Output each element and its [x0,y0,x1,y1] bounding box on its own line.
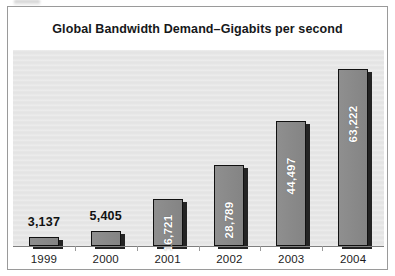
x-label-2000: 2000 [93,253,119,265]
bar-body-2004[interactable]: 63,222 [338,69,368,246]
bar-body-2003[interactable]: 44,497 [276,121,306,246]
bar-value-label-2004: 63,222 [347,105,359,142]
bar-body-2002[interactable]: 28,789 [214,165,244,246]
bar-2000[interactable]: 5,405 [91,50,121,246]
chart-title: Global Bandwidth Demand–Gigabits per sec… [52,22,342,36]
bar-body-2001[interactable]: 16,721 [153,199,183,246]
x-label-2001: 2001 [154,253,180,265]
bar-value-label-2002: 28,789 [223,202,235,239]
bar-body-1999[interactable] [29,237,59,246]
bar-2003[interactable]: 44,497 [276,50,306,246]
bar-2004[interactable]: 63,222 [338,50,368,246]
bar-1999[interactable]: 3,137 [29,50,59,246]
x-label-1999: 1999 [31,253,57,265]
x-label-2004: 2004 [340,253,366,265]
bar-2001[interactable]: 16,721 [153,50,183,246]
bar-series-layer: 3,1375,40516,72128,78944,49763,222 [13,50,384,246]
scan-top-white-margin [0,0,395,3]
chart-title-band: Global Bandwidth Demand–Gigabits per sec… [8,7,387,50]
bar-2002[interactable]: 28,789 [214,50,244,246]
x-label-2002: 2002 [216,253,242,265]
chart-frame: Global Bandwidth Demand–Gigabits per sec… [7,6,388,270]
x-label-2003: 2003 [278,253,304,265]
bar-value-label-2000: 5,405 [90,209,122,223]
bar-value-label-2003: 44,497 [285,158,297,195]
bar-body-2000[interactable] [91,231,121,246]
bar-value-label-1999: 3,137 [28,215,60,229]
x-axis-category-labels: 199920002001200220032004 [13,251,384,270]
